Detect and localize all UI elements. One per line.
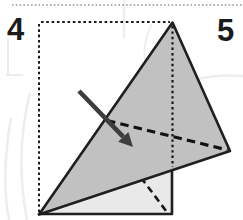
step-number-5: 5 <box>217 15 234 46</box>
watermark-line-top-right <box>196 76 243 79</box>
watermark-curve-left-inner <box>5 118 11 220</box>
origami-instruction-page: 4 5 <box>0 0 243 220</box>
step-number-4: 4 <box>7 14 24 45</box>
watermark-curve-left-outer <box>22 93 30 220</box>
origami-diagram-svg <box>0 0 243 220</box>
